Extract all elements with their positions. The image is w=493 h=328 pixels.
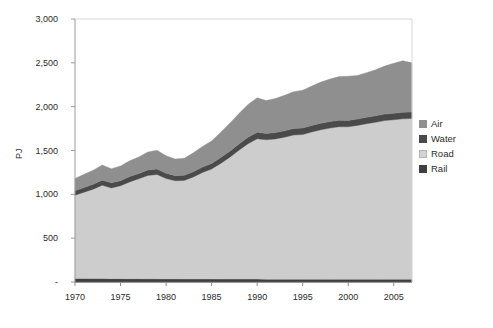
legend-swatch-water-icon: [419, 135, 427, 143]
legend-item-water[interactable]: Water: [419, 133, 456, 144]
legend-swatch-road-icon: [419, 150, 427, 158]
area-chart: PJ 3,0002,5002,0001,5001,000500- 1970197…: [0, 0, 493, 328]
legend-item-road[interactable]: Road: [419, 148, 454, 159]
legend-swatch-air-icon: [419, 120, 427, 128]
legend-label: Road: [431, 148, 454, 159]
legend-label: Rail: [431, 163, 447, 174]
legend-label: Water: [431, 133, 456, 144]
legend-item-rail[interactable]: Rail: [419, 163, 447, 174]
legend-label: Air: [431, 118, 443, 129]
legend-swatch-rail-icon: [419, 165, 427, 173]
legend-item-air[interactable]: Air: [419, 118, 443, 129]
